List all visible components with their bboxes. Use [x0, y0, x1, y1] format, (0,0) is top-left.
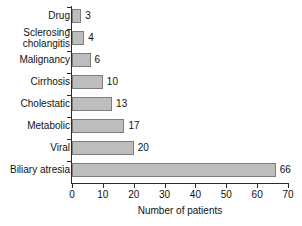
category-label: Viral	[0, 142, 70, 153]
x-axis-tick-label: 60	[244, 188, 270, 201]
y-axis-tick	[67, 95, 72, 96]
bar-value-label: 3	[85, 8, 91, 23]
bar-row: 3	[72, 6, 288, 28]
x-axis-tick-label: 50	[213, 188, 239, 201]
plot-area: 3461013172066	[72, 6, 288, 183]
bar	[72, 9, 81, 23]
category-label: Cholestatic	[0, 98, 70, 109]
bar-value-label: 17	[128, 118, 139, 133]
category-label: Biliary atresia	[0, 164, 70, 175]
bar-chart: 3461013172066 DrugSclerosingcholangitisM…	[0, 0, 302, 226]
bar-value-label: 20	[138, 140, 149, 155]
bar	[72, 53, 91, 67]
bar-value-label: 6	[95, 52, 101, 67]
bar	[72, 141, 134, 155]
y-axis-tick	[67, 139, 72, 140]
category-label: Drug	[0, 10, 70, 21]
bar-row: 4	[72, 28, 288, 50]
y-axis-tick	[67, 7, 72, 8]
x-axis-tick-label: 10	[90, 188, 116, 201]
bar-row: 20	[72, 138, 288, 160]
bar-row: 66	[72, 160, 288, 182]
category-label: Sclerosingcholangitis	[0, 27, 70, 49]
y-axis-tick	[67, 29, 72, 30]
bar-row: 13	[72, 94, 288, 116]
bar-row: 10	[72, 72, 288, 94]
x-axis-tick-label: 0	[59, 188, 85, 201]
x-axis-tick-label: 30	[152, 188, 178, 201]
bar-row: 6	[72, 50, 288, 72]
category-label: Malignancy	[0, 54, 70, 65]
bar	[72, 119, 124, 133]
bar-row: 17	[72, 116, 288, 138]
x-axis-tick-label: 70	[275, 188, 301, 201]
bar-value-label: 4	[88, 30, 94, 45]
y-axis-tick	[67, 51, 72, 52]
bar-value-label: 13	[116, 96, 127, 111]
y-axis-tick	[67, 161, 72, 162]
y-axis-tick	[67, 117, 72, 118]
category-label: Metabolic	[0, 120, 70, 131]
bar	[72, 75, 103, 89]
bar	[72, 97, 112, 111]
bar-value-label: 66	[280, 162, 291, 177]
category-label-line: cholangitis	[0, 38, 70, 49]
category-label-line: Sclerosing	[0, 27, 70, 38]
x-axis-tick-label: 40	[182, 188, 208, 201]
x-axis-title: Number of patients	[71, 204, 289, 217]
bar	[72, 163, 276, 177]
bar	[72, 31, 84, 45]
y-axis-tick	[67, 73, 72, 74]
category-label: Cirrhosis	[0, 76, 70, 87]
x-axis-tick-label: 20	[121, 188, 147, 201]
bar-value-label: 10	[107, 74, 118, 89]
